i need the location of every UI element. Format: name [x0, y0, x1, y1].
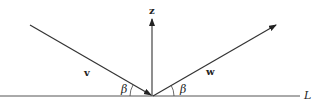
angle-arc-left: [130, 85, 133, 96]
reflection-diagram: L z v w β β: [0, 0, 323, 103]
vector-v: [30, 25, 151, 95]
angle-beta-right-label: β: [179, 83, 186, 96]
angle-beta-left-label: β: [120, 83, 127, 96]
vector-v-label: v: [83, 67, 91, 78]
angle-arc-right: [171, 85, 174, 96]
line-l-label: L: [303, 89, 311, 102]
vector-z-label: z: [149, 5, 155, 16]
vector-w-label: w: [205, 66, 215, 77]
